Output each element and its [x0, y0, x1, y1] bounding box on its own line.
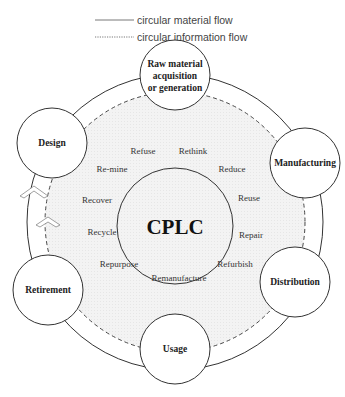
node-manufacturing: Manufacturing [270, 128, 340, 198]
r-remanufacture: Remanufacture [152, 273, 207, 283]
svg-text:Raw material: Raw material [147, 59, 202, 69]
r-refurbish: Refurbish [217, 259, 253, 269]
svg-text:Usage: Usage [163, 344, 187, 354]
r-rethink: Rethink [179, 146, 208, 156]
svg-text:or generation: or generation [148, 83, 203, 93]
cplc-diagram: circular material flow circular informat… [0, 0, 345, 397]
node-distribution: Distribution [260, 247, 330, 317]
svg-text:Design: Design [38, 138, 66, 148]
r-repurpose: Repurpose [100, 259, 139, 269]
node-usage: Usage [140, 314, 210, 384]
node-raw-material: Raw material acquisition or generation [140, 40, 210, 110]
node-retirement: Retirement [13, 255, 83, 325]
r-recycle: Recycle [88, 227, 117, 237]
svg-text:Manufacturing: Manufacturing [274, 158, 336, 168]
svg-text:acquisition: acquisition [153, 71, 198, 81]
legend-information-flow-label: circular information flow [137, 31, 248, 43]
svg-text:Retirement: Retirement [25, 285, 72, 295]
r-re-mine: Re-mine [97, 164, 128, 174]
legend: circular material flow circular informat… [95, 14, 248, 43]
r-recover: Recover [82, 195, 112, 205]
svg-text:Distribution: Distribution [270, 277, 320, 287]
r-repair: Repair [239, 230, 263, 240]
r-reuse: Reuse [238, 193, 260, 203]
node-design: Design [17, 108, 87, 178]
legend-material-flow-label: circular material flow [137, 14, 233, 26]
r-refuse: Refuse [131, 146, 156, 156]
r-reduce: Reduce [219, 164, 246, 174]
cplc-label: CPLC [146, 215, 203, 239]
